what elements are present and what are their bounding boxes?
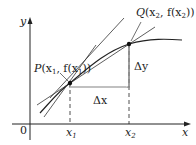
origin-label: 0 <box>20 124 27 137</box>
y-axis-label: y <box>19 15 27 28</box>
secant-tangent-diagram: y x 0 P(x1, f(x1)) Q(x2, f(x2)) x1 x2 Δx… <box>0 0 196 145</box>
point-P <box>68 81 72 85</box>
y-axis-arrow-icon <box>28 17 33 24</box>
delta-y-label: Δy <box>134 60 149 73</box>
point-P-label: P(x1, f(x1)) <box>33 62 91 76</box>
delta-bracket-inner <box>70 46 127 87</box>
tick-x2: x2 <box>125 126 136 140</box>
point-Q-label: Q(x2, f(x2)) <box>136 6 195 20</box>
delta-x-label: Δx <box>93 94 108 107</box>
tick-x1: x1 <box>66 126 77 140</box>
x-axis-label: x <box>182 126 189 139</box>
Q-leader <box>131 22 141 41</box>
curve <box>40 39 182 113</box>
point-Q <box>127 42 131 46</box>
secant-line-2 <box>50 18 124 98</box>
